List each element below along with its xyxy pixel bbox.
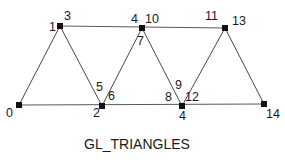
index-label: 11 (205, 9, 218, 23)
index-label: 4 (131, 12, 138, 26)
index-label: 7 (137, 34, 144, 48)
index-label: 10 (145, 12, 159, 26)
vertex-marker (16, 102, 22, 108)
index-label: 0 (6, 106, 13, 120)
index-label: 6 (108, 89, 115, 103)
index-label: 14 (266, 107, 280, 121)
vertex-marker (222, 25, 228, 31)
vertex-marker (57, 23, 63, 29)
index-label: 4 (179, 109, 186, 123)
edge-bottom (19, 104, 264, 105)
gl-triangles-diagram: 0 1 3 2 5 6 4 10 7 8 9 12 4 11 13 14 GL_… (0, 0, 285, 162)
index-label: 9 (175, 78, 182, 92)
index-label: 5 (96, 80, 103, 94)
index-label: 3 (64, 9, 71, 23)
edge-top2-bottom3 (142, 28, 182, 106)
edge-1-2 (60, 26, 102, 106)
index-label: 12 (185, 90, 199, 104)
edge-top3-bottomright (225, 28, 264, 104)
diagram-caption: GL_TRIANGLES (84, 136, 190, 152)
index-label: 13 (232, 14, 246, 28)
index-label: 2 (93, 106, 100, 120)
index-label: 1 (49, 20, 56, 34)
index-label: 8 (165, 90, 172, 104)
edge-0-1 (19, 26, 60, 105)
